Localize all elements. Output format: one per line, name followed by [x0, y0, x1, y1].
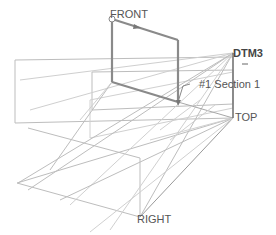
dtm3-datum-label[interactable]: DTM3 [233, 47, 263, 59]
model-viewport[interactable]: FRONT DTM3 #1 Section 1 TOP RIGHT [0, 0, 276, 235]
top-datum-label[interactable]: TOP [235, 111, 257, 123]
front-datum-label[interactable]: FRONT [110, 8, 148, 20]
section-annotation-label[interactable]: #1 Section 1 [199, 78, 260, 90]
right-datum-label[interactable]: RIGHT [137, 213, 171, 225]
